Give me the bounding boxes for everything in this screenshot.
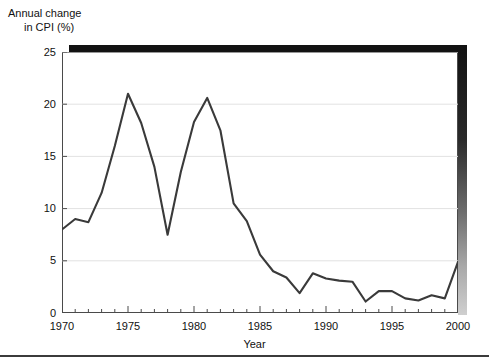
x-tick-label: 1980 (174, 321, 214, 332)
x-tick-label: 1970 (42, 321, 82, 332)
chart-figure: Annual change in CPI (%) 0510152025 1970… (0, 0, 489, 364)
plot-canvas (62, 52, 458, 313)
x-tick-label: 1990 (306, 321, 346, 332)
x-tick-label: 1985 (240, 321, 280, 332)
y-tick-label: 25 (30, 47, 56, 58)
y-axis-title-line-1: Annual change (8, 7, 81, 19)
x-axis-title-text: Year (243, 338, 265, 350)
y-tick-label: 5 (30, 255, 56, 266)
x-major-tick-group (62, 306, 458, 313)
y-axis-title-line-2: in CPI (%) (8, 20, 128, 34)
y-tick-label: 0 (30, 308, 56, 319)
x-tick-label: 1975 (108, 321, 148, 332)
figure-bottom-rule (0, 355, 489, 357)
plot-frame-right-shadow (458, 45, 467, 315)
cpi-line-series (62, 94, 458, 302)
x-axis-title: Year (0, 338, 489, 350)
y-major-tick-group (62, 52, 67, 313)
y-tick-label: 20 (30, 99, 56, 110)
y-tick-label: 15 (30, 151, 56, 162)
y-tick-label: 10 (30, 203, 56, 214)
y-axis-title: Annual change in CPI (%) (8, 6, 128, 34)
gridline-group (62, 52, 458, 261)
x-tick-label: 1995 (372, 321, 412, 332)
x-tick-label: 2000 (438, 321, 478, 332)
